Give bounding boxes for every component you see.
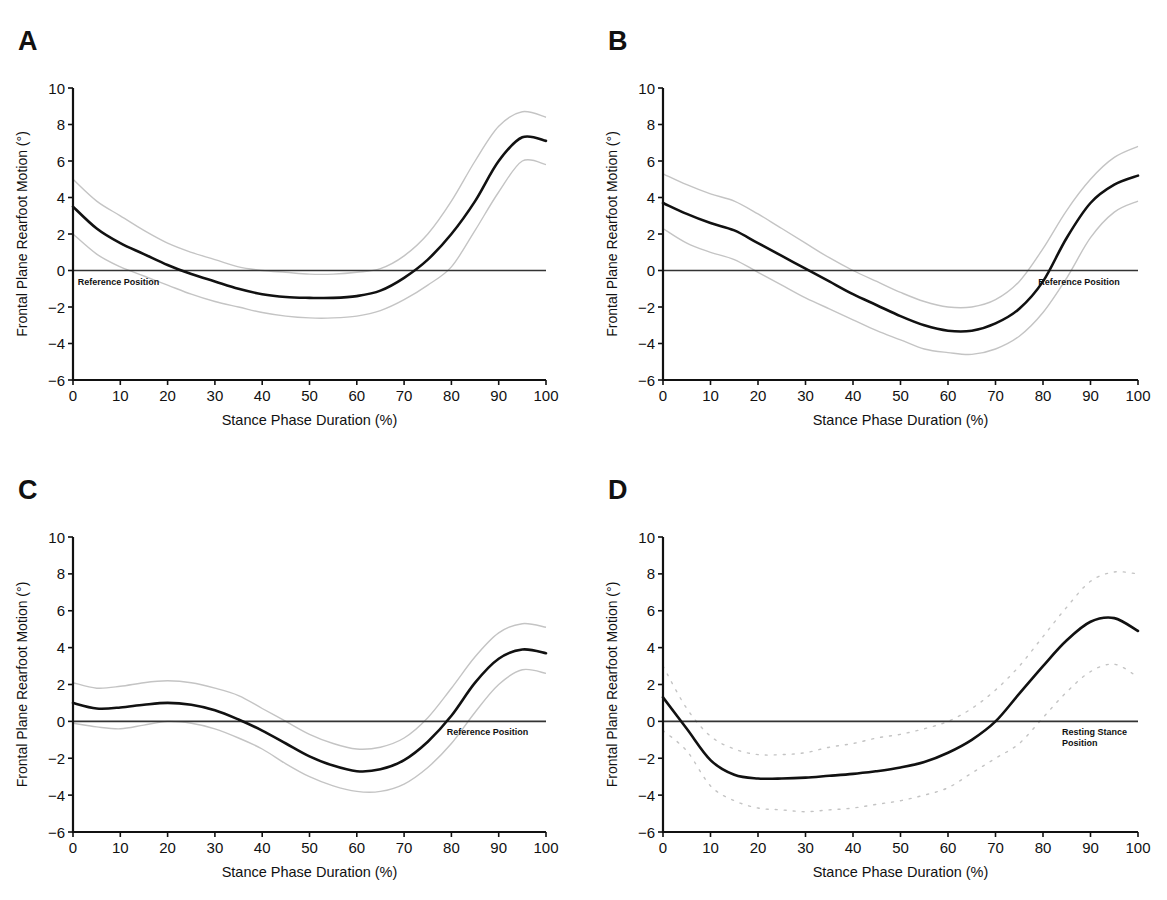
x-axis-title: Stance Phase Duration (%) — [813, 412, 989, 428]
reference-label: Resting Stance — [1062, 727, 1127, 737]
y-axis-title: Frontal Plane Rearfoot Motion (°) — [604, 582, 620, 788]
y-tick-label: −4 — [48, 787, 65, 804]
x-tick-label: 60 — [940, 839, 957, 856]
x-tick-label: 80 — [1035, 839, 1052, 856]
x-tick-label: 0 — [659, 839, 667, 856]
y-tick-label: 4 — [57, 189, 65, 206]
y-tick-label: −6 — [48, 824, 65, 841]
x-tick-label: 100 — [533, 387, 558, 404]
x-tick-label: 40 — [845, 839, 862, 856]
x-tick-label: 70 — [987, 839, 1004, 856]
x-tick-label: 80 — [1035, 387, 1052, 404]
x-tick-label: 0 — [69, 387, 77, 404]
line-chart: Reference Position−6−4−20246810010203040… — [0, 0, 583, 450]
panel-c: C Reference Position−6−4−202468100102030… — [0, 450, 583, 900]
y-tick-label: 0 — [57, 262, 65, 279]
panel-a: A Reference Position−6−4−202468100102030… — [0, 0, 583, 450]
y-tick-label: 8 — [57, 565, 65, 582]
x-tick-label: 10 — [112, 387, 129, 404]
y-tick-label: −6 — [638, 372, 655, 389]
y-tick-label: 4 — [647, 189, 655, 206]
y-axis-title: Frontal Plane Rearfoot Motion (°) — [14, 582, 30, 788]
x-tick-label: 90 — [1082, 839, 1099, 856]
y-tick-label: 4 — [647, 639, 655, 656]
reference-label: Reference Position — [1038, 277, 1120, 287]
x-tick-label: 60 — [348, 387, 365, 404]
x-tick-label: 10 — [112, 839, 129, 856]
x-tick-label: 50 — [301, 839, 318, 856]
y-tick-label: −4 — [638, 787, 655, 804]
x-tick-label: 30 — [797, 839, 814, 856]
x-tick-label: 10 — [702, 839, 719, 856]
x-tick-label: 10 — [702, 387, 719, 404]
reference-label: Reference Position — [78, 277, 160, 287]
y-axis-title: Frontal Plane Rearfoot Motion (°) — [14, 131, 30, 337]
y-tick-label: 2 — [647, 226, 655, 243]
x-tick-label: 50 — [892, 387, 909, 404]
x-tick-label: 0 — [659, 387, 667, 404]
y-tick-label: −4 — [48, 335, 65, 352]
series-mean — [663, 176, 1138, 332]
y-tick-label: 0 — [647, 262, 655, 279]
y-tick-label: −2 — [638, 299, 655, 316]
x-tick-label: 60 — [348, 839, 365, 856]
line-chart: Resting StancePosition−6−4−2024681001020… — [583, 450, 1166, 900]
y-tick-label: 8 — [647, 565, 655, 582]
panel-b: B Reference Position−6−4−202468100102030… — [583, 0, 1166, 450]
x-tick-label: 20 — [750, 839, 767, 856]
x-tick-label: 90 — [1082, 387, 1099, 404]
line-chart: Reference Position−6−4−20246810010203040… — [0, 450, 583, 900]
x-tick-label: 30 — [207, 839, 224, 856]
x-tick-label: 20 — [159, 387, 176, 404]
x-tick-label: 0 — [69, 839, 77, 856]
series-mean — [663, 618, 1138, 779]
x-tick-label: 80 — [443, 839, 460, 856]
x-tick-label: 40 — [254, 839, 271, 856]
x-tick-label: 100 — [1125, 839, 1150, 856]
series-lower-sd — [73, 160, 546, 319]
x-tick-label: 60 — [940, 387, 957, 404]
y-tick-label: 2 — [57, 676, 65, 693]
x-tick-label: 20 — [750, 387, 767, 404]
x-tick-label: 90 — [490, 387, 507, 404]
panel-d: D Resting StancePosition−6−4−20246810010… — [583, 450, 1166, 900]
y-tick-label: −2 — [48, 750, 65, 767]
y-tick-label: 8 — [57, 116, 65, 133]
x-tick-label: 90 — [490, 839, 507, 856]
x-tick-label: 40 — [254, 387, 271, 404]
y-tick-label: −6 — [638, 824, 655, 841]
y-tick-label: 6 — [647, 153, 655, 170]
x-axis-title: Stance Phase Duration (%) — [222, 412, 398, 428]
series-mean — [73, 649, 546, 771]
y-tick-label: 10 — [638, 529, 655, 546]
y-tick-label: 10 — [48, 529, 65, 546]
series-upper-sd — [73, 111, 546, 274]
y-tick-label: 6 — [57, 602, 65, 619]
y-tick-label: −6 — [48, 372, 65, 389]
x-tick-label: 70 — [987, 387, 1004, 404]
y-tick-label: 4 — [57, 639, 65, 656]
x-tick-label: 80 — [443, 387, 460, 404]
reference-label: Reference Position — [447, 727, 529, 737]
y-tick-label: −2 — [638, 750, 655, 767]
line-chart: Reference Position−6−4−20246810010203040… — [583, 0, 1166, 450]
y-tick-label: 6 — [647, 602, 655, 619]
x-tick-label: 70 — [396, 387, 413, 404]
x-tick-label: 40 — [845, 387, 862, 404]
x-tick-label: 70 — [396, 839, 413, 856]
x-axis-title: Stance Phase Duration (%) — [813, 864, 989, 880]
y-tick-label: 0 — [57, 713, 65, 730]
y-tick-label: −2 — [48, 299, 65, 316]
x-tick-label: 20 — [159, 839, 176, 856]
y-tick-label: 10 — [638, 80, 655, 97]
x-tick-label: 30 — [797, 387, 814, 404]
x-tick-label: 100 — [533, 839, 558, 856]
x-tick-label: 50 — [892, 839, 909, 856]
y-tick-label: 2 — [647, 676, 655, 693]
y-tick-label: −4 — [638, 335, 655, 352]
y-tick-label: 10 — [48, 80, 65, 97]
x-tick-label: 100 — [1125, 387, 1150, 404]
y-tick-label: 0 — [647, 713, 655, 730]
x-tick-label: 30 — [207, 387, 224, 404]
x-axis-title: Stance Phase Duration (%) — [222, 864, 398, 880]
